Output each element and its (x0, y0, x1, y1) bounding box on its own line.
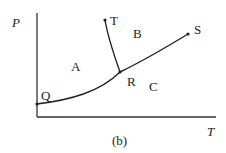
region-c-label: C (149, 80, 158, 93)
region-b-label: B (133, 27, 142, 40)
y-axis-label: P (12, 16, 20, 29)
point-r (118, 70, 121, 73)
point-q-label: Q (41, 89, 50, 102)
point-s-label: S (194, 23, 201, 36)
x-axis-label: T (207, 125, 214, 138)
point-q (35, 102, 38, 105)
region-a-label: A (71, 60, 80, 73)
caption: (b) (112, 134, 127, 147)
point-r-label: R (127, 75, 136, 88)
point-s (186, 32, 189, 35)
curve-r-s (120, 34, 188, 72)
point-t (103, 18, 106, 21)
point-t-label: T (110, 14, 118, 27)
